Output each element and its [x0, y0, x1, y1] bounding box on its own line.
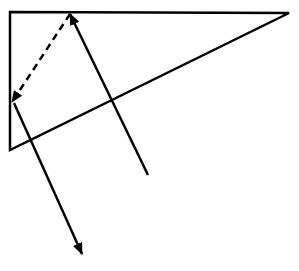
incident-ray: [70, 14, 148, 175]
ray-diagram: [0, 0, 299, 271]
prism-triangle: [10, 12, 289, 150]
reflected-ray: [12, 14, 70, 102]
emergent-ray: [14, 103, 82, 254]
